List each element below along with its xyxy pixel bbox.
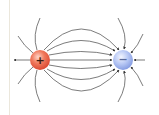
field-line-pos-upleft bbox=[18, 36, 33, 53]
positive-charge: + bbox=[30, 50, 50, 70]
field-line-upper-2 bbox=[47, 41, 115, 52]
field-line-lower-2 bbox=[47, 69, 115, 80]
field-line-pos-down bbox=[35, 70, 40, 102]
field-line-pos-up bbox=[35, 18, 40, 50]
field-line-neg-downright bbox=[131, 67, 143, 86]
negative-charge-label: − bbox=[118, 53, 127, 66]
field-line-neg-down bbox=[118, 71, 125, 102]
field-line-neg-up bbox=[118, 18, 125, 49]
field-line-upper-1 bbox=[49, 52, 112, 56]
field-line-pos-downleft bbox=[18, 67, 33, 84]
dipole-diagram: + − bbox=[0, 0, 159, 115]
field-line-neg-upright bbox=[131, 34, 143, 53]
field-lines-canvas: + − bbox=[0, 0, 159, 115]
negative-charge: − bbox=[113, 50, 133, 70]
field-line-lower-1 bbox=[49, 65, 112, 69]
positive-charge-label: + bbox=[35, 54, 44, 67]
